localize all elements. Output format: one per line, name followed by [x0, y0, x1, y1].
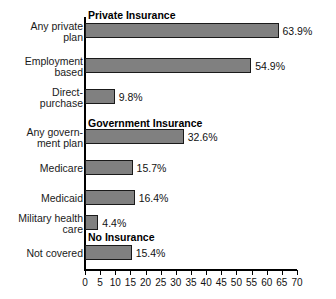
bar-value-label: 32.6%	[188, 131, 218, 143]
x-axis-tick	[130, 270, 131, 275]
x-axis-tick	[221, 270, 222, 275]
category-label: Any govern- ment plan	[0, 127, 83, 150]
x-axis-tick-label: 50	[231, 277, 242, 288]
x-axis-tick	[267, 270, 268, 275]
category-label: Military health care	[0, 213, 83, 236]
x-axis-tick-label: 35	[185, 277, 196, 288]
x-axis-tick-label: 15	[125, 277, 136, 288]
bar	[85, 190, 135, 205]
bar	[85, 129, 184, 144]
x-axis-tick	[100, 270, 101, 275]
bar	[85, 23, 279, 38]
bar-value-label: 54.9%	[255, 60, 285, 72]
bar	[85, 215, 98, 230]
bar	[85, 89, 115, 104]
bar-value-label: 9.8%	[119, 91, 143, 103]
bar-value-label: 16.4%	[139, 192, 169, 204]
bar	[85, 160, 133, 175]
category-label: Employment based	[0, 56, 83, 79]
bar	[85, 58, 251, 73]
bar-value-label: 15.4%	[136, 247, 166, 259]
x-axis-tick-label: 45	[216, 277, 227, 288]
x-axis-tick-label: 30	[170, 277, 181, 288]
x-axis-tick	[206, 270, 207, 275]
x-axis-tick	[297, 270, 298, 275]
bar-value-label: 63.9%	[283, 25, 313, 37]
x-axis-tick-label: 10	[110, 277, 121, 288]
x-axis-tick	[146, 270, 147, 275]
category-label: Any private plan	[0, 21, 83, 44]
section-header-private-insurance: Private Insurance	[88, 9, 176, 21]
section-header-government-insurance: Government Insurance	[88, 117, 202, 129]
category-label: Not covered	[0, 248, 83, 260]
bar-value-label: 15.7%	[137, 162, 167, 174]
x-axis-tick	[115, 270, 116, 275]
x-axis-tick	[85, 270, 86, 275]
x-axis-tick	[252, 270, 253, 275]
x-axis-tick-label: 65	[276, 277, 287, 288]
x-axis-tick	[236, 270, 237, 275]
x-axis-tick-label: 70	[291, 277, 302, 288]
x-axis-tick	[282, 270, 283, 275]
x-axis-tick-label: 20	[140, 277, 151, 288]
category-label: Medicare	[0, 163, 83, 175]
x-axis-tick-label: 25	[155, 277, 166, 288]
x-axis-tick-label: 55	[246, 277, 257, 288]
x-axis-tick	[161, 270, 162, 275]
section-header-no-insurance: No Insurance	[88, 231, 155, 243]
horizontal-bar-chart: Private Insurance Government Insurance N…	[0, 0, 336, 299]
x-axis-tick-label: 60	[261, 277, 272, 288]
x-axis-tick	[191, 270, 192, 275]
x-axis-tick-label: 40	[201, 277, 212, 288]
x-axis-tick-label: 5	[97, 277, 103, 288]
x-axis-tick-label: 0	[82, 277, 88, 288]
x-axis-tick	[176, 270, 177, 275]
bar-value-label: 4.4%	[102, 217, 126, 229]
category-label: Direct- purchase	[0, 87, 83, 110]
category-label: Medicaid	[0, 193, 83, 205]
bar	[85, 245, 132, 260]
